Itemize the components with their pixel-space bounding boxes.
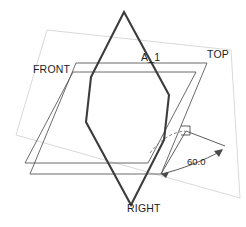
front-plane-label: FRONT	[33, 63, 71, 75]
angle-arrow-right-icon	[214, 149, 223, 157]
auxiliary-plane-outline	[86, 12, 169, 205]
auxiliary-plane-label: A_1	[141, 51, 160, 63]
front-plane-outline	[30, 63, 207, 174]
top-plane-label: TOP	[207, 48, 229, 60]
angle-leader-upper	[186, 131, 225, 146]
cad-drawing-root: TOP FRONT RIGHT A_1 60.0	[0, 0, 246, 227]
cad-canvas: TOP FRONT RIGHT A_1 60.0	[0, 0, 246, 227]
right-angle-marker-icon	[181, 126, 190, 135]
right-plane-label: RIGHT	[127, 202, 161, 214]
right-plane-outline	[25, 72, 196, 163]
angle-dimension-label: 60.0	[187, 156, 206, 167]
